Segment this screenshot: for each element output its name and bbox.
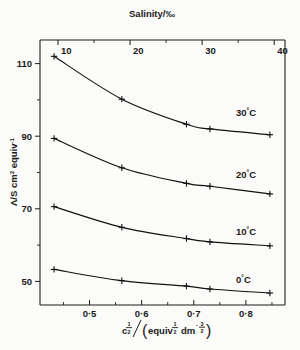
series-label: 20°C [236,169,256,181]
bottom-axis-title: c 1 2 ( equiv 1 2 dm - 3 2 ) [122,320,211,339]
top-axis-ticks: 10203040 [58,40,288,56]
left-axis-equiv-exponent: -1 [8,137,15,143]
bottom-axis-dm: dm [181,325,195,336]
data-point-marker [267,132,273,138]
data-point-marker [267,191,273,197]
bottom-axis-c-exp-num: 1 [128,321,131,327]
series-label: 10°C [236,226,256,238]
bottom-axis-ticks: 0·50·60·70·8 [63,300,272,319]
bottom-axis-equiv-exp-den: 2 [174,329,177,335]
bottom-tick-label: 0·8 [239,308,253,319]
data-point-marker [267,243,273,249]
data-point-marker [267,290,273,296]
left-axis-equiv: equiv [8,143,19,171]
data-point-marker [51,135,57,141]
conductivity-salinity-figure: Salinity/‰ 10203040 0·50·60·70·8 1109070… [0,0,300,350]
data-point-marker [207,126,213,132]
data-point-marker [207,286,213,292]
top-tick-label: 30 [205,45,216,56]
bottom-axis-dm-exp-num: 3 [201,321,204,327]
data-point-marker [119,277,125,283]
data-point-marker [183,180,189,186]
left-tick-label: 70 [21,203,32,214]
left-tick-label: 110 [17,58,32,69]
data-point-marker [51,203,57,209]
top-tick-label: 20 [133,45,144,56]
data-point-marker [51,266,57,272]
top-tick-label: 40 [277,45,288,56]
left-tick-label: 50 [21,276,32,287]
data-point-marker [183,283,189,289]
left-axis-title: Λ/S cm2 equiv-1 [8,137,20,206]
left-tick-label: 90 [21,131,32,142]
series-label: 0°C [236,274,251,286]
bottom-tick-label: 0·5 [83,308,97,319]
series-label: 30°C [236,107,256,119]
data-point-marker [119,224,125,230]
data-point-marker [207,239,213,245]
bottom-axis-dm-minus: - [196,322,198,328]
bottom-axis-equiv-exp-num: 1 [174,321,177,327]
top-tick-label: 10 [61,45,72,56]
series-curve [54,138,270,194]
svg-text:Λ/S cm2 equiv-1: Λ/S cm2 equiv-1 [8,137,20,206]
bottom-axis-equiv: equiv [148,325,174,336]
data-point-marker [183,235,189,241]
left-axis-ticks: 110907050 [17,58,40,287]
left-axis-slash: /S cm [8,174,19,199]
data-point-marker [183,121,189,127]
plot-svg: Salinity/‰ 10203040 0·50·60·70·8 1109070… [0,0,300,350]
data-point-marker [119,165,125,171]
bottom-axis-dm-exp-den: 2 [201,328,204,334]
data-point-marker [51,53,57,59]
top-axis-title: Salinity/‰ [129,8,175,19]
data-point-marker [119,96,125,102]
data-point-marker [207,183,213,189]
bottom-tick-label: 0·6 [135,308,149,319]
series-curve [54,56,270,134]
bottom-axis-c: c [122,325,127,336]
bottom-axis-close-paren: ) [206,322,211,339]
bottom-tick-label: 0·7 [187,308,201,319]
bottom-axis-c-exp-den: 2 [128,329,131,335]
